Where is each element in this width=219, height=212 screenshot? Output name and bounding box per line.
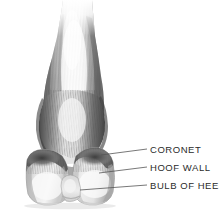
label-hoof-wall: HOOF WALL	[150, 162, 211, 173]
label-bulb-of-heel: BULB OF HEEL	[150, 180, 219, 191]
anatomy-figure: CORONET HOOF WALL BULB OF HEEL	[0, 0, 219, 212]
label-group: CORONET HOOF WALL BULB OF HEEL	[0, 0, 219, 212]
label-coronet: CORONET	[150, 144, 201, 155]
